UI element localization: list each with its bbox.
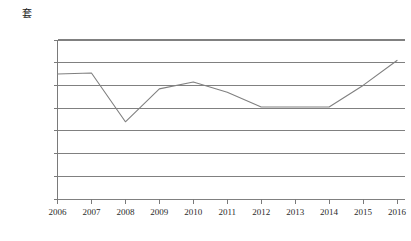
- series-line: [58, 60, 398, 121]
- gridlines: [58, 40, 406, 199]
- line-chart: 套 020 00040 00060 00080 000100 000120 00…: [0, 0, 411, 241]
- data-series: [58, 60, 398, 121]
- plot-area: [0, 0, 411, 241]
- y-axis-ticks: [54, 40, 58, 199]
- x-axis-ticks: [58, 199, 398, 204]
